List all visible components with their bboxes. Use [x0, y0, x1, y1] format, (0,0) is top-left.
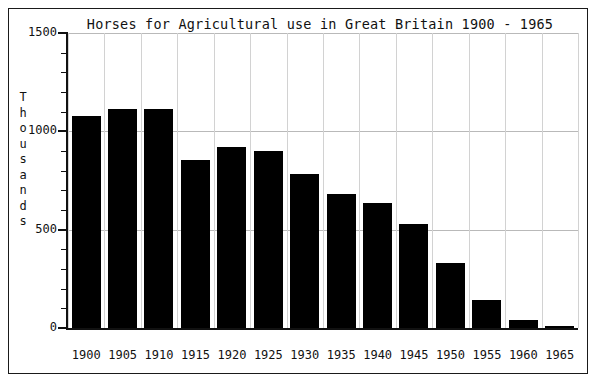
gridline-vertical — [359, 33, 360, 328]
y-tick-major — [58, 327, 67, 329]
gridline-vertical — [578, 33, 579, 328]
gridline-vertical — [250, 33, 251, 328]
bar-1955 — [472, 300, 501, 328]
y-tick-minor — [61, 112, 67, 113]
gridline-vertical — [469, 33, 470, 328]
gridline-vertical — [542, 33, 543, 328]
gridline-vertical — [396, 33, 397, 328]
bar-1950 — [436, 263, 465, 328]
y-tick-minor — [61, 308, 67, 309]
y-tick-minor — [61, 92, 67, 93]
gridline-vertical — [287, 33, 288, 328]
bar-1910 — [144, 109, 173, 328]
bar-1900 — [72, 116, 101, 328]
bar-1935 — [327, 194, 356, 328]
y-tick-minor — [61, 151, 67, 152]
y-tick-label: 0 — [13, 320, 57, 334]
chart-figure: Horses for Agricultural use in Great Bri… — [0, 0, 599, 383]
chart-title: Horses for Agricultural use in Great Bri… — [70, 16, 570, 34]
gridline-vertical — [214, 33, 215, 328]
gridline-vertical — [141, 33, 142, 328]
bar-1920 — [217, 147, 246, 328]
bar-1915 — [181, 160, 210, 328]
bar-1940 — [363, 203, 392, 328]
y-tick-minor — [61, 210, 67, 211]
x-axis-tick-labels: 1900190519101915192019251930193519401945… — [68, 348, 578, 368]
y-tick-minor — [61, 53, 67, 54]
bar-1905 — [108, 109, 137, 328]
y-tick-minor — [61, 249, 67, 250]
y-axis-tick-labels: 050010001500 — [0, 0, 57, 383]
bar-1930 — [290, 174, 319, 328]
y-tick-label: 1500 — [13, 25, 57, 39]
y-tick-major — [58, 130, 67, 132]
y-axis-line — [66, 32, 68, 330]
y-tick-label: 500 — [13, 222, 57, 236]
x-axis-line — [66, 328, 578, 330]
gridline-vertical — [68, 33, 69, 328]
y-tick-label: 1000 — [13, 123, 57, 137]
gridline-vertical — [323, 33, 324, 328]
y-tick-minor — [61, 190, 67, 191]
x-tick-label-1965: 1965 — [538, 348, 582, 362]
y-tick-major — [58, 32, 67, 34]
y-tick-minor — [61, 269, 67, 270]
gridline-vertical — [177, 33, 178, 328]
plot-area — [68, 33, 578, 328]
y-tick-minor — [61, 289, 67, 290]
gridline-vertical — [432, 33, 433, 328]
y-tick-minor — [61, 72, 67, 73]
gridline-vertical — [104, 33, 105, 328]
bar-1960 — [509, 320, 538, 328]
bar-1945 — [399, 224, 428, 328]
y-tick-major — [58, 229, 67, 231]
y-tick-minor — [61, 171, 67, 172]
bar-1925 — [254, 151, 283, 328]
gridline-vertical — [505, 33, 506, 328]
